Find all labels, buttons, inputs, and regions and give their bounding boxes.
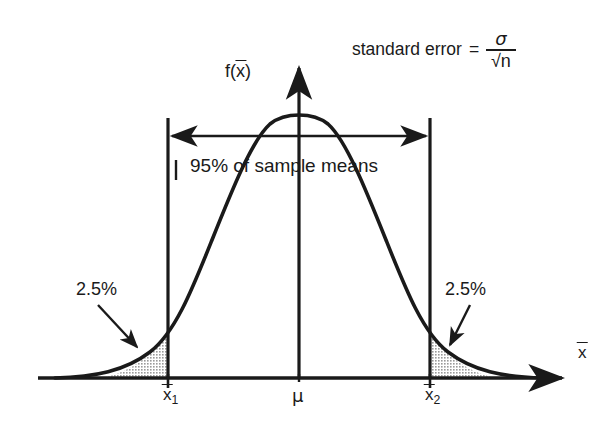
overbar-icon (424, 384, 435, 386)
x-axis-label: x (578, 344, 587, 361)
confidence-band-label: 95% of sample means (190, 156, 378, 175)
xbar-axis: x (578, 344, 587, 361)
x-axis-tick-label-mean: μ (292, 387, 303, 405)
y-label-prefix: f( (225, 61, 236, 81)
left-tail-percent-label: 2.5% (76, 280, 117, 298)
y-label-variable: x (236, 61, 245, 81)
formula-denominator-sqrt-n: √n (491, 51, 511, 70)
tick-subscript-upper: 2 (434, 393, 441, 407)
x-axis-tick-label-upper-bound: x2 (425, 386, 440, 406)
overbar-icon (235, 60, 246, 62)
y-axis-label: f(x) (225, 62, 251, 80)
right-tail-percent-label: 2.5% (445, 280, 486, 298)
tick-subscript-lower: 1 (172, 393, 179, 407)
y-label-suffix: ) (245, 61, 251, 81)
formula-equals-sign: = (469, 41, 479, 59)
formula-fraction: σ √n (486, 30, 515, 70)
overbar-icon (577, 342, 588, 344)
xbar-1: x (163, 386, 172, 403)
formula-denominator-n: n (501, 51, 511, 71)
x-label-variable: x (578, 343, 587, 362)
right-tail-leader-arrow (450, 305, 470, 345)
figure-canvas: standard error = σ √n f(x) 95% of sample… (0, 0, 616, 435)
xbar-2: x (425, 386, 434, 403)
y-label-xbar: x (236, 62, 245, 80)
radical-icon: √ (491, 51, 501, 71)
formula-numerator-sigma: σ (486, 30, 515, 49)
overbar-icon (162, 384, 173, 386)
distribution-diagram (0, 0, 616, 435)
standard-error-formula: standard error = σ √n (352, 30, 516, 70)
tick-base-upper: x (425, 385, 434, 404)
left-tail-leader-arrow (98, 305, 137, 347)
tick-base-lower: x (163, 385, 172, 404)
x-axis-tick-label-lower-bound: x1 (163, 386, 178, 406)
formula-lhs-label: standard error (352, 41, 462, 59)
